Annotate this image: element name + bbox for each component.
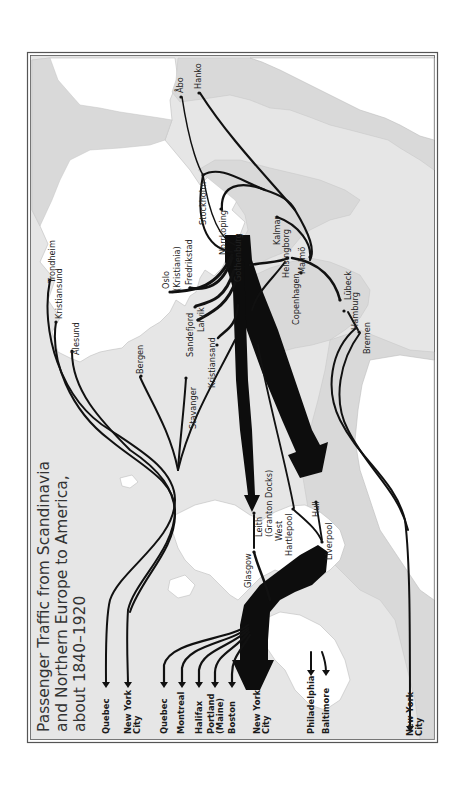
label-malmo: Malmö (297, 247, 307, 274)
label-hartlepool: Hartlepool (284, 513, 294, 556)
label-hamburg: Hamburg (350, 292, 360, 330)
label-norrkoping: Norrköping (218, 210, 228, 255)
dest-quebec-1: Quebec (101, 699, 111, 734)
map-title-line3: about 1840–1920 (71, 596, 89, 732)
label-fredrikstad: Fredrikstad (184, 239, 194, 285)
label-copenhagen: Copenhagen (291, 273, 301, 325)
dest-philadelphia: Philadelphia (306, 675, 316, 734)
label-bremen: Bremen (362, 322, 372, 354)
label-kristiansund: Kristiansund (54, 268, 64, 319)
label-larvik: Larvik (196, 307, 206, 332)
label-kristiansand: Kristiansand (207, 337, 217, 388)
label-alesund: Ålesund (70, 322, 81, 355)
map-title-line2: and Northern Europe to America, (53, 475, 71, 732)
label-liverpool: Liverpool (324, 522, 334, 560)
label-kristiania: (Kristiania) (172, 246, 182, 291)
dest-quebec-2: Quebec (159, 699, 169, 734)
dest-baltimore: Baltimore (321, 688, 331, 734)
map-title-line1: Passenger Traffic from Scandinavia (35, 461, 53, 732)
dest-newyork-far-b: City (414, 717, 424, 736)
label-granton-docks: (Granton Docks) (264, 470, 274, 537)
label-helsingborg: Helsingborg (281, 229, 291, 278)
label-hull: Hull (311, 501, 321, 517)
label-stockholm: Stockholm (198, 182, 208, 225)
dest-montreal: Montreal (176, 691, 186, 734)
label-stavanger: Stavanger (188, 386, 198, 429)
emigration-map: Åbo Hanko Stockholm Norrköping Gothenbur… (0, 0, 469, 789)
label-leith: Leith (254, 517, 264, 537)
label-west: West (274, 520, 284, 541)
label-oslo: Oslo (161, 271, 171, 289)
dest-newyork-main-b: City (261, 715, 271, 734)
label-bergen: Bergen (135, 345, 145, 374)
dest-maine: (Maine) (215, 698, 225, 734)
dest-halifax: Halifax (194, 700, 204, 734)
label-gothenburg: Gothenburg (233, 233, 243, 282)
dest-boston: Boston (227, 701, 237, 734)
label-abo: Åbo (174, 77, 185, 93)
dest-newyork-1b: City (132, 715, 142, 734)
label-sandefjord: Sandefjord (185, 313, 195, 357)
label-glasgow: Glasgow (243, 553, 253, 588)
label-hanko: Hanko (193, 63, 203, 89)
